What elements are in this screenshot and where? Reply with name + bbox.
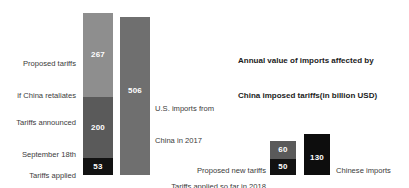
chart-title: Annual value of imports affected by Chin…: [238, 32, 377, 124]
bar-segment-200: 200: [83, 97, 113, 158]
label-chinese-imports-from-us: Chinese imports from U.S. in 2017: [336, 145, 409, 188]
bar-us-tariffs-stacked: 267 200 53: [83, 13, 113, 175]
value-label-50: 50: [278, 163, 287, 171]
label-line-1: Proposed tariffs: [0, 59, 76, 70]
label-tariffs-applied-so-far-2018-left: Tariffs applied so far in 2018: [0, 150, 76, 188]
bar-segment-130: 130: [304, 134, 330, 175]
value-label-53: 53: [93, 163, 102, 171]
label-line-1: Tariffs applied so far in 2018: [147, 182, 266, 188]
label-line-1: Tariffs applied: [0, 171, 76, 182]
bar-segment-60: 60: [270, 141, 296, 159]
label-line-1: Tariffs announced: [0, 118, 76, 129]
value-label-200: 200: [91, 124, 105, 132]
bar-segment-50: 50: [270, 159, 296, 175]
bar-segment-506: 506: [120, 17, 150, 175]
bar-chinese-imports-from-us: 130: [304, 134, 330, 175]
chart-title-line-2: China imposed tariffs(in billion USD): [238, 90, 377, 102]
value-label-130: 130: [310, 154, 324, 162]
chart-canvas: Annual value of imports affected by Chin…: [0, 0, 409, 188]
bar-segment-267: 267: [83, 13, 113, 97]
value-label-267: 267: [91, 51, 105, 59]
value-label-506: 506: [128, 87, 142, 95]
bar-segment-53: 53: [83, 158, 113, 175]
label-line-1: Chinese imports: [336, 166, 409, 177]
bar-us-imports-from-china: 506: [120, 17, 150, 175]
value-label-60: 60: [278, 146, 287, 154]
label-tariffs-applied-so-far-2018-right: Tariffs applied so far in 2018: [147, 161, 266, 188]
chart-title-line-1: Annual value of imports affected by: [238, 55, 377, 67]
bar-china-tariffs-stacked: 60 50: [270, 141, 296, 175]
label-line-1: U.S. imports from: [155, 104, 245, 115]
